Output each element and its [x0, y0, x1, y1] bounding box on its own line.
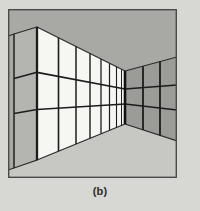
left-return-wall [14, 27, 37, 168]
scene-group [8, 9, 178, 179]
perspective-room-illustration [0, 0, 200, 211]
figure-container: (b) [0, 0, 200, 211]
figure-caption: (b) [0, 185, 200, 198]
